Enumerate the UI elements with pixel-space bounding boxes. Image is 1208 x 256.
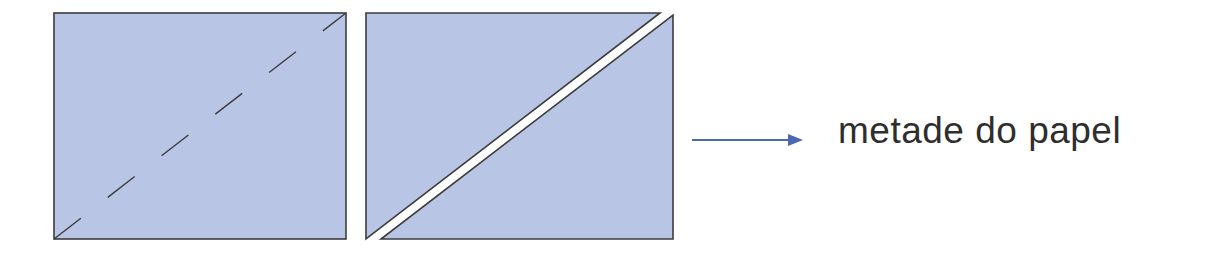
folded-paper-panel [54, 13, 346, 239]
half-paper-label: metade do papel [838, 110, 1121, 152]
arrow-right-icon [692, 134, 803, 146]
cut-paper-panel [366, 13, 673, 239]
